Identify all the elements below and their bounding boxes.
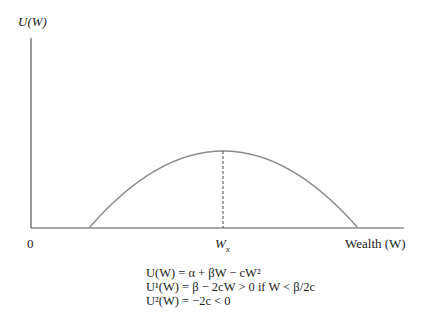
x-axis-label: Wealth (W) <box>345 236 406 252</box>
origin-label: 0 <box>27 236 34 252</box>
peak-wealth-label: Wx <box>215 236 230 254</box>
equation-second-derivative: U²(W) = −2c < 0 <box>146 294 231 308</box>
equation-utility: U(W) = α + βW − cW² <box>146 266 261 280</box>
y-axis-label: U(W) <box>18 14 47 30</box>
equation-first-derivative: U¹(W) = β − 2cW > 0 if W < β/2c <box>146 280 315 294</box>
